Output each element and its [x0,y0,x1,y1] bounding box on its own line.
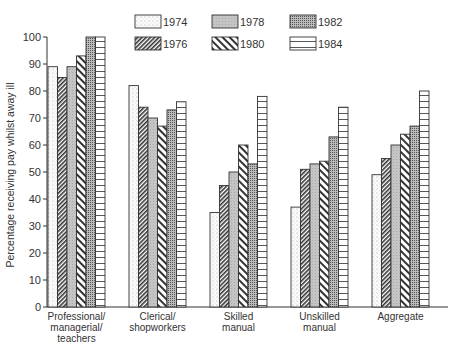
y-tick-label: 80 [29,85,41,97]
y-tick-label: 40 [29,193,41,205]
bar-1980 [158,126,168,307]
chart-bars [48,37,429,307]
legend-label: 1980 [240,38,264,50]
bar-1984 [339,107,349,307]
bar-1976 [301,169,311,307]
bar-1982 [329,137,339,307]
bar-1982 [410,126,420,307]
legend-label: 1974 [163,16,187,28]
x-category-label: managerial/ [50,322,102,333]
x-category-label: shopworkers [129,322,186,333]
x-category-label: Skilled [224,311,253,322]
legend-swatch [212,15,238,28]
bar-1974 [48,67,58,307]
y-axis-label: Percentage receiving pay whilst away ill [4,82,16,267]
bar-1976 [220,186,230,308]
y-tick-label: 100 [23,31,41,43]
legend-item-1974: 1974 [135,15,187,28]
legend-swatch [290,15,316,28]
chart-legend: 197419761978198019821984 [135,15,342,50]
legend-swatch [212,37,238,50]
bar-1976 [139,107,149,307]
bar-1976 [58,78,68,308]
bar-1978 [310,164,320,307]
x-category-label: manual [222,322,255,333]
y-tick-label: 60 [29,139,41,151]
x-category-label: Professional/ [48,311,106,322]
bar-1974 [210,213,220,308]
bar-1984 [420,91,430,307]
bar-1982 [86,37,96,307]
y-tick-label: 70 [29,112,41,124]
legend-item-1984: 1984 [290,37,342,50]
y-tick-label: 20 [29,247,41,259]
x-category-label: Clerical/ [139,311,175,322]
bar-1980 [401,134,411,307]
x-category-label: manual [303,322,336,333]
bar-1974 [372,175,382,307]
bar-1974 [291,207,301,307]
bar-1984 [258,96,268,307]
legend-swatch [135,37,161,50]
y-tick-label: 10 [29,274,41,286]
legend-label: 1984 [318,38,342,50]
legend-label: 1982 [318,16,342,28]
y-tick-label: 90 [29,58,41,70]
legend-swatch [135,15,161,28]
bar-1984 [96,37,106,307]
bar-1974 [129,86,139,307]
bar-1982 [167,110,177,307]
legend-label: 1978 [240,16,264,28]
legend-label: 1976 [163,38,187,50]
legend-item-1982: 1982 [290,15,342,28]
bar-1978 [391,145,401,307]
bar-1984 [177,102,187,307]
x-axis-labels: Professional/managerial/teachersClerical… [48,311,424,344]
bar-1980 [239,145,249,307]
y-tick-label: 30 [29,220,41,232]
x-category-label: teachers [57,333,95,344]
x-category-label: Unskilled [299,311,340,322]
bar-1976 [382,159,392,308]
y-tick-label: 50 [29,166,41,178]
bar-1980 [320,161,330,307]
bar-chart: 197419761978198019821984 010203040506070… [0,0,450,352]
y-tick-label: 0 [35,301,41,313]
bar-1978 [67,67,77,307]
legend-item-1976: 1976 [135,37,187,50]
bar-1980 [77,56,87,307]
legend-swatch [290,37,316,50]
legend-item-1980: 1980 [212,37,264,50]
x-category-label: Aggregate [377,311,424,322]
legend-item-1978: 1978 [212,15,264,28]
bar-1978 [229,172,239,307]
bar-1978 [148,118,158,307]
bar-1982 [248,164,258,307]
